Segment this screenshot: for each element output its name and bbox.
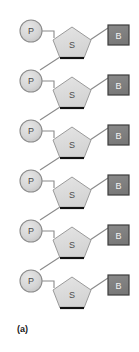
phosphate-label: P: [28, 226, 34, 236]
phosphate-label: P: [28, 76, 34, 86]
base-label: B: [115, 81, 121, 91]
sugar-label: S: [69, 190, 75, 200]
sugar-label: S: [69, 40, 75, 50]
figure-caption: (a): [17, 324, 28, 335]
sugar-label: S: [69, 140, 75, 150]
backbone-svg-canvas: S P B S P B S: [0, 0, 139, 352]
nucleotide-backbone-diagram: S P B S P B S: [0, 0, 139, 352]
base-label: B: [115, 181, 121, 191]
sugar-label: S: [69, 90, 75, 100]
phosphate-label: P: [28, 26, 34, 36]
phosphate-label: P: [28, 126, 34, 136]
sugar-label: S: [69, 290, 75, 300]
base-label: B: [115, 281, 121, 291]
base-label: B: [115, 231, 121, 241]
sugar-label: S: [69, 240, 75, 250]
base-label: B: [115, 131, 121, 141]
phosphate-label: P: [28, 276, 34, 286]
phosphate-label: P: [28, 176, 34, 186]
base-label: B: [115, 31, 121, 41]
